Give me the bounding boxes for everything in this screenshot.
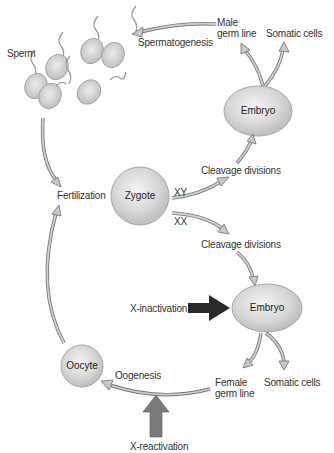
x-reactivation-arrow — [143, 395, 169, 437]
oogenesis-label: Oogenesis — [115, 370, 161, 381]
x-inactivation-label: X-inactivation — [130, 303, 187, 314]
cleavage-top-label: Cleavage divisions — [201, 165, 281, 176]
female-germ-line-label-2: germ line — [215, 388, 254, 399]
zygote-label: Zygote — [111, 190, 169, 201]
cleavage-bottom-label: Cleavage divisions — [201, 239, 281, 250]
female-germ-line-label-1: Female — [215, 377, 247, 388]
sperm-icon — [72, 72, 126, 109]
xx-label: XX — [174, 216, 187, 227]
to-somatic-cells-top-arrow — [265, 50, 283, 86]
xy-label: XY — [174, 187, 187, 198]
male-germ-line-label-2: germ line — [217, 28, 256, 39]
male-germ-line-label-1: Male — [217, 17, 238, 28]
spermatogenesis-label: Spermatogenesis — [138, 37, 213, 48]
oocyte-label: Oocyte — [61, 360, 103, 371]
somatic-cells-bottom-label: Somatic cells — [264, 377, 320, 388]
embryo-bottom-label: Embryo — [232, 302, 302, 313]
sperm-label: Sperm — [7, 48, 35, 59]
somatic-cells-top-label: Somatic cells — [266, 28, 322, 39]
to-female-germ-line-arrow — [249, 333, 261, 362]
sperm-cells — [21, 6, 137, 112]
embryo-top-label: Embryo — [224, 105, 292, 116]
cleavage-to-embryo-bottom-arrow — [237, 252, 253, 278]
x-reactivation-label: X-reactivation — [130, 441, 188, 452]
fertilization-label: Fertilization — [57, 190, 106, 201]
x-inactivation-arrow — [188, 295, 230, 321]
to-male-germ-line-arrow — [245, 50, 263, 86]
to-somatic-cells-bottom-arrow — [266, 333, 284, 362]
sperm-icon — [98, 6, 137, 71]
